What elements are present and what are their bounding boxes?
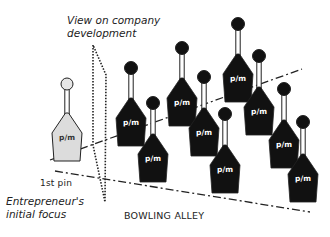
pin: p/m <box>269 83 299 169</box>
pin: p/m <box>167 42 197 127</box>
pin-stem <box>180 52 184 82</box>
pin-head <box>198 71 211 84</box>
pin-head <box>147 97 160 110</box>
pin-head <box>253 50 266 63</box>
pin-label: p/m <box>251 107 267 116</box>
bowling-alley-label: BOWLING ALLEY <box>124 210 204 221</box>
focus-label-line2: initial focus <box>6 208 84 221</box>
first-pin-label: 1st pin <box>40 178 72 188</box>
alley-lower-line <box>55 171 310 212</box>
pin-head <box>232 18 245 31</box>
pin-label: p/m <box>230 74 246 83</box>
pin-label: p/m <box>123 118 139 127</box>
focus-label: Entrepreneur's initial focus <box>6 195 84 221</box>
first-pin: p/m <box>52 78 82 161</box>
pin-label: p/m <box>276 140 292 149</box>
pin-stem <box>236 28 240 58</box>
view-label-line1: View on company <box>67 14 160 27</box>
pin-label: p/m <box>145 154 161 163</box>
pin-label: p/m <box>174 98 190 107</box>
pin-stem <box>202 81 206 112</box>
pin-head <box>61 78 73 90</box>
pin-head <box>297 116 310 129</box>
pin-stem <box>257 60 261 91</box>
pins-layer: p/mp/mp/mp/mp/mp/mp/mp/mp/mp/m <box>52 18 318 203</box>
bowling-alley-diagram: p/mp/mp/mp/mp/mp/mp/mp/mp/mp/m View on c… <box>0 0 330 237</box>
view-label-line2: development <box>67 27 160 40</box>
pin: p/m <box>223 18 253 103</box>
pin-stem <box>151 107 155 138</box>
pin-label: p/m <box>217 165 233 174</box>
pin-label: p/m <box>295 174 311 183</box>
pin-head <box>125 62 138 75</box>
pin-stem <box>223 118 227 149</box>
view-label: View on company development <box>67 14 160 40</box>
pin: p/m <box>116 62 146 147</box>
pin-stem <box>282 93 286 124</box>
pin-head <box>176 42 189 55</box>
pin-stem <box>301 126 305 158</box>
pin-label: p/m <box>196 128 212 137</box>
pin-stem <box>129 72 133 102</box>
focus-label-line1: Entrepreneur's <box>6 195 84 208</box>
pin-label: p/m <box>59 133 75 142</box>
pin-head <box>219 108 232 121</box>
pin-head <box>278 83 291 96</box>
